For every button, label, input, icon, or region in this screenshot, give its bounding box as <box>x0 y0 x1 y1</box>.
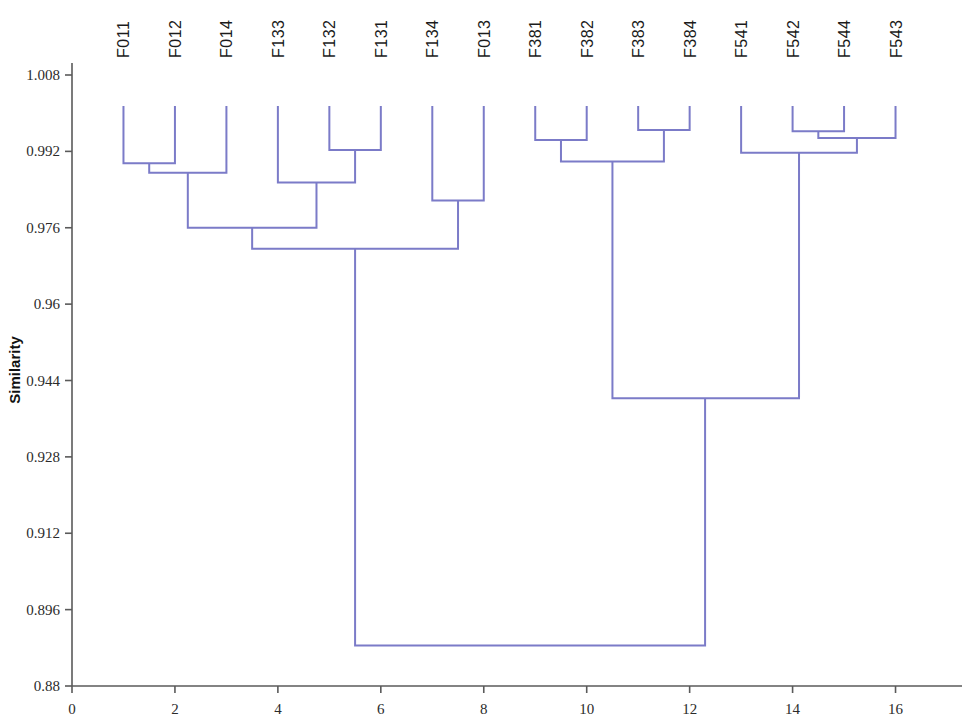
x-tick-label: 16 <box>888 701 904 717</box>
x-tick-label: 12 <box>682 701 697 717</box>
leaf-label-f381: F381 <box>527 20 544 58</box>
leaf-label-f014: F014 <box>218 20 235 58</box>
plot-background <box>0 0 964 725</box>
y-axis-title: Similarity <box>6 336 23 404</box>
y-tick-label: 0.88 <box>34 678 60 694</box>
leaf-label-f133: F133 <box>270 20 287 58</box>
y-tick-label: 0.944 <box>26 373 60 389</box>
leaf-label-f012: F012 <box>167 20 184 58</box>
dendrogram-figure: F011F012F014F133F132F131F134F013F381F382… <box>0 0 964 725</box>
y-axis-title-text: Similarity <box>6 336 23 404</box>
leaf-label-f011: F011 <box>115 21 132 58</box>
leaf-label-f013: F013 <box>476 20 493 58</box>
leaf-label-f541: F541 <box>733 20 750 58</box>
y-tick-label: 0.976 <box>26 220 60 236</box>
x-tick-label: 4 <box>274 701 282 717</box>
x-tick-label: 14 <box>785 701 801 717</box>
leaf-label-f544: F544 <box>836 20 853 58</box>
x-tick-label: 8 <box>480 701 488 717</box>
y-tick-label: 1.008 <box>26 67 60 83</box>
y-tick-label: 0.992 <box>26 143 60 159</box>
leaf-label-f384: F384 <box>682 20 699 58</box>
leaf-label-f543: F543 <box>888 20 905 58</box>
leaf-label-f382: F382 <box>579 20 596 58</box>
leaf-label-f383: F383 <box>630 20 647 58</box>
leaf-label-f134: F134 <box>424 20 441 58</box>
x-tick-label: 0 <box>68 701 76 717</box>
leaf-label-f132: F132 <box>321 20 338 58</box>
x-tick-label: 6 <box>377 701 385 717</box>
x-tick-label: 2 <box>171 701 179 717</box>
leaf-label-f131: F131 <box>373 20 390 58</box>
x-tick-label: 10 <box>579 701 594 717</box>
y-tick-label: 0.96 <box>34 296 61 312</box>
dendrogram-plot: F011F012F014F133F132F131F134F013F381F382… <box>0 0 964 725</box>
y-tick-label: 0.896 <box>26 602 60 618</box>
leaf-label-f542: F542 <box>785 20 802 58</box>
y-tick-label: 0.928 <box>26 449 60 465</box>
y-tick-label: 0.912 <box>26 525 60 541</box>
